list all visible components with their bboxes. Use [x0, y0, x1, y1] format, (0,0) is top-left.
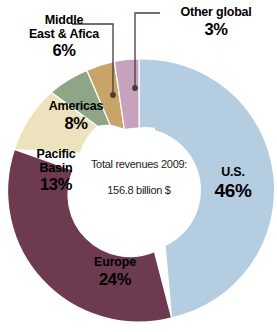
label-other-global-value: 3% — [160, 21, 272, 39]
label-other-global: Other global 3% — [160, 6, 272, 38]
label-middle-east-africa-line1: Middle — [6, 14, 122, 28]
label-europe-value: 24% — [72, 271, 158, 289]
donut-chart: Middle East & Afica 6% Other global 3% U… — [0, 0, 277, 332]
label-us-name: U.S. — [198, 166, 268, 180]
label-americas-value: 8% — [34, 115, 118, 133]
label-americas-name: Americas — [34, 100, 118, 114]
label-middle-east-africa-line2: East & Afica — [6, 28, 122, 42]
label-middle-east-africa: Middle East & Afica 6% — [6, 14, 122, 60]
label-middle-east-africa-value: 6% — [6, 42, 122, 60]
center-annotation-line2: 156.8 billion $ — [72, 184, 206, 196]
label-us: U.S. 46% — [198, 166, 268, 201]
label-europe: Europe 24% — [72, 256, 158, 288]
center-annotation: Total revenues 2009: 156.8 billion $ — [72, 158, 206, 196]
label-other-global-name: Other global — [160, 6, 272, 20]
center-annotation-line1: Total revenues 2009: — [72, 158, 206, 170]
label-americas: Americas 8% — [34, 100, 118, 132]
label-us-value: 46% — [198, 181, 268, 202]
label-europe-name: Europe — [72, 256, 158, 270]
